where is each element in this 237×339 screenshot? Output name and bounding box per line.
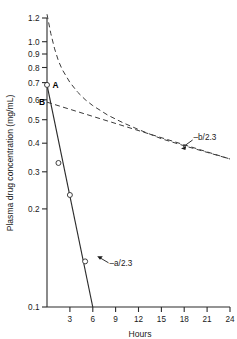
x-tick-label: 24 bbox=[225, 315, 235, 324]
x-axis-ticks bbox=[70, 307, 230, 312]
x-tick-label: 21 bbox=[203, 315, 213, 324]
annotation-alpha-slope: –a/2.3 bbox=[97, 256, 133, 268]
x-tick-label: 15 bbox=[157, 315, 167, 324]
y-axis-title: Plasma drug concentration (mg/mL) bbox=[5, 95, 15, 232]
x-tick-label: 12 bbox=[134, 315, 144, 324]
x-axis-tick-labels: 3 6 9 12 15 18 21 24 bbox=[68, 315, 235, 324]
chart-canvas: Plasma drug concentration (mg/mL) 1.2 1.… bbox=[0, 0, 237, 339]
x-axis-title: Hours bbox=[129, 329, 152, 339]
data-point bbox=[67, 192, 72, 197]
y-tick-label: 0.3 bbox=[28, 168, 40, 177]
data-point bbox=[83, 259, 88, 264]
annotation-beta-slope: –b/2.3 bbox=[181, 133, 217, 150]
y-tick-label: 1.2 bbox=[28, 14, 40, 23]
annotation-beta-label: –b/2.3 bbox=[194, 133, 217, 142]
pharmacokinetics-semilog-chart: Plasma drug concentration (mg/mL) 1.2 1.… bbox=[0, 0, 237, 339]
y-tick-label: 1.0 bbox=[28, 38, 40, 47]
terminal-beta-phase-line bbox=[47, 102, 230, 159]
y-tick-label: 0.4 bbox=[28, 139, 40, 148]
data-point bbox=[45, 82, 50, 87]
data-point-markers bbox=[45, 82, 88, 263]
y-tick-label: 0.9 bbox=[28, 50, 40, 59]
annotation-alpha-label: –a/2.3 bbox=[110, 259, 133, 268]
y-tick-label: 0.5 bbox=[28, 116, 40, 125]
y-tick-label: 0.7 bbox=[28, 79, 40, 88]
x-tick-label: 6 bbox=[91, 315, 96, 324]
y-axis-tick-labels: 1.2 1.0 0.9 0.8 0.7 0.6 0.5 0.4 0.3 0.2 … bbox=[28, 14, 40, 312]
x-tick-label: 9 bbox=[113, 315, 118, 324]
y-axis-ticks bbox=[42, 18, 47, 307]
y-tick-label: 0.1 bbox=[28, 303, 40, 312]
x-tick-label: 18 bbox=[180, 315, 190, 324]
point-label-a: A bbox=[53, 80, 59, 90]
y-tick-label: 0.2 bbox=[28, 205, 40, 214]
point-label-b: B bbox=[39, 97, 45, 107]
y-tick-label: 0.8 bbox=[28, 64, 40, 73]
data-point bbox=[56, 160, 61, 165]
x-tick-label: 3 bbox=[68, 315, 73, 324]
